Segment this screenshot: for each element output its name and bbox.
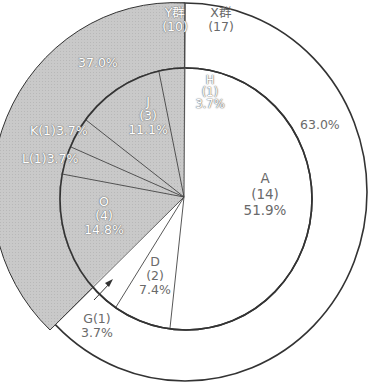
- label-g: G(1) 3.7%: [72, 312, 122, 340]
- label-y-group: Y群 (10): [150, 6, 200, 34]
- label-j: J (3) 11.1%: [118, 95, 178, 137]
- label-l: L(1)3.7%: [22, 152, 78, 166]
- label-a: A (14) 51.9%: [220, 170, 310, 218]
- label-x-group-pct: 63.0%: [300, 118, 340, 132]
- label-h: H (1) 3.7%: [192, 74, 228, 110]
- label-x-group: X群 (17): [196, 6, 246, 34]
- nested-donut-chart: [0, 0, 370, 383]
- label-k: K(1)3.7%: [30, 124, 88, 138]
- label-y-group-pct: 37.0%: [78, 56, 118, 70]
- label-o: O (4) 14.8%: [74, 195, 134, 237]
- label-d: D (2) 7.4%: [130, 255, 180, 297]
